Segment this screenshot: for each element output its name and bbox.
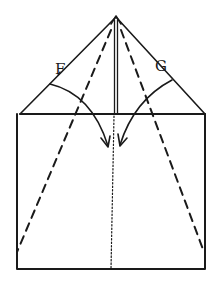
triangle-left-edge <box>20 17 116 114</box>
center-fold-dotted <box>111 116 114 269</box>
label-g: G <box>155 57 167 75</box>
label-f: F <box>55 60 65 78</box>
fold-arrow-g <box>120 80 172 145</box>
folding-diagram: F G <box>0 0 219 289</box>
fold-arrow-f <box>50 84 108 146</box>
